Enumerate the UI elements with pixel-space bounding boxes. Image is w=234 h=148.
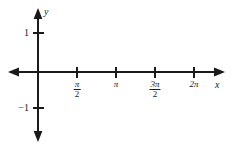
x-axis-left-arrowhead bbox=[8, 68, 19, 77]
fraction-3pi-over-2: 3π 2 bbox=[149, 80, 160, 100]
y-tick-label-negative-1: −1 bbox=[18, 103, 29, 113]
x-axis-label: x bbox=[215, 80, 219, 90]
x-tick-label-pi-over-2: π 2 bbox=[74, 80, 81, 100]
x-axis-right-arrowhead bbox=[214, 68, 225, 77]
fraction-denominator: 2 bbox=[149, 90, 160, 99]
fraction-pi-over-2: π 2 bbox=[74, 80, 81, 100]
coordinate-plane-figure: π 2 π 3π 2 2π 1 −1 y x bbox=[0, 0, 234, 148]
fraction-denominator: 2 bbox=[74, 90, 81, 99]
x-tick-label-pi: π bbox=[114, 80, 119, 89]
x-tick-label-2pi: 2π bbox=[189, 80, 198, 89]
y-axis-top-arrowhead bbox=[34, 8, 43, 19]
y-axis-bottom-arrowhead bbox=[34, 131, 43, 142]
x-tick-label-3pi-over-2: 3π 2 bbox=[149, 80, 160, 100]
axes-svg bbox=[0, 0, 234, 148]
y-axis-label: y bbox=[44, 7, 48, 17]
y-tick-label-1: 1 bbox=[24, 28, 29, 38]
